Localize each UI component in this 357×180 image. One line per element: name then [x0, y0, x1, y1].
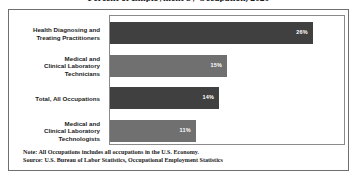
bar-value-label: 14%: [203, 95, 220, 101]
category-label: Medical andClinical LaboratoryTechnician…: [8, 55, 100, 78]
category-label-line: Technicians: [8, 70, 100, 78]
chart-figure: Percent of Employment by Occupation, 202…: [0, 0, 357, 180]
plot-area: 26%Health Diagnosing andTreating Practit…: [109, 15, 345, 145]
source-text: Source: U.S. Bureau of Labor Statistics,…: [23, 156, 333, 164]
chart-title: Percent of Employment by Occupation, 202…: [0, 0, 357, 2]
category-label-line: Clinical Laboratory: [8, 127, 100, 135]
chart-notes: Note: All Occupations includes all occup…: [23, 148, 333, 164]
bar-value-label: 11%: [179, 128, 195, 134]
category-label-line: Medical and: [8, 120, 100, 128]
category-label: Total, All Occupations: [8, 95, 100, 103]
bar-value-label: 15%: [210, 63, 227, 69]
category-label-line: Medical and: [8, 55, 100, 63]
bar-row: 26%Health Diagnosing andTreating Practit…: [110, 17, 344, 50]
category-label: Health Diagnosing andTreating Practition…: [8, 26, 100, 41]
category-label-line: Total, All Occupations: [8, 95, 100, 103]
category-label-line: Health Diagnosing and: [8, 26, 100, 34]
bar-row: 14%Total, All Occupations: [110, 82, 344, 115]
note-text: Note: All Occupations includes all occup…: [23, 148, 333, 156]
bars-layer: 26%Health Diagnosing andTreating Practit…: [110, 16, 344, 144]
category-label-line: Clinical Laboratory: [8, 62, 100, 70]
category-label: Medical andClinical LaboratoryTechnologi…: [8, 120, 100, 143]
bar-value-label: 26%: [296, 30, 313, 36]
bar: 26%: [110, 22, 313, 44]
chart-outer-frame: 26%Health Diagnosing andTreating Practit…: [8, 9, 349, 171]
category-label-line: Treating Practitioners: [8, 34, 100, 42]
bar-row: 11%Medical andClinical LaboratoryTechnol…: [110, 115, 344, 148]
bar: 14%: [110, 87, 219, 109]
bar: 11%: [110, 120, 196, 142]
category-label-line: Technologists: [8, 135, 100, 143]
bar: 15%: [110, 55, 227, 77]
bar-row: 15%Medical andClinical LaboratoryTechnic…: [110, 50, 344, 83]
